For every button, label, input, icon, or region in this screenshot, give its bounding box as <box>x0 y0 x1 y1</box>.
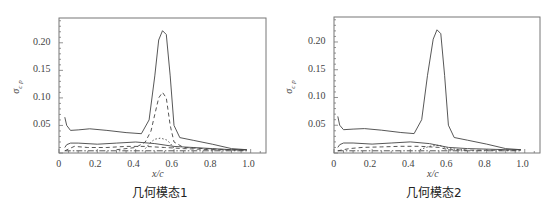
caption-1: 几何模态1 <box>132 183 188 200</box>
x-tick-label: 1.0 <box>516 158 529 169</box>
plot-area-2 <box>275 0 555 207</box>
x-tick-label: 0.4 <box>127 158 140 169</box>
x-tick-label: 0.2 <box>89 158 102 169</box>
plot-frame <box>334 17 540 153</box>
y-axis-label-1: σc p <box>10 80 24 93</box>
x-tick-label: 0.2 <box>364 158 377 169</box>
x-tick-label: 0.8 <box>478 158 491 169</box>
x-tick-label: 1.0 <box>242 158 255 169</box>
y-tick-label: 0.05 <box>33 118 51 129</box>
series-solid-upper <box>338 30 521 150</box>
chart-panel-mode-2: σc p x/c 几何模态2 00.20.40.60.81.00.050.100… <box>275 0 555 207</box>
caption-2: 几何模态2 <box>406 183 462 200</box>
x-tick-label: 0.6 <box>440 158 453 169</box>
x-tick-label: 0.6 <box>166 158 179 169</box>
y-tick-label: 0.10 <box>308 90 326 101</box>
series-dashed-peak <box>117 92 247 150</box>
x-axis-label-2: x/c <box>427 168 439 179</box>
series-solid-upper <box>65 31 247 150</box>
y-tick-label: 0.15 <box>33 63 51 74</box>
plot-area-1 <box>0 0 280 207</box>
x-axis-label-1: x/c <box>152 168 164 179</box>
y-tick-label: 0.05 <box>308 118 326 129</box>
y-tick-label: 0.20 <box>308 35 326 46</box>
y-tick-label: 0.10 <box>33 91 51 102</box>
x-tick-label: 0.4 <box>402 158 415 169</box>
series-dashed-lower <box>338 146 521 151</box>
y-tick-label: 0.20 <box>33 36 51 47</box>
x-tick-label: 0 <box>331 158 336 169</box>
x-tick-label: 0 <box>56 158 61 169</box>
plot-frame <box>59 18 266 153</box>
chart-panel-mode-1: σc p x/c 几何模态1 00.20.40.60.81.00.050.100… <box>0 0 280 207</box>
y-axis-label-2: σc p <box>283 80 297 93</box>
x-tick-label: 0.8 <box>204 158 217 169</box>
y-tick-label: 0.15 <box>308 63 326 74</box>
